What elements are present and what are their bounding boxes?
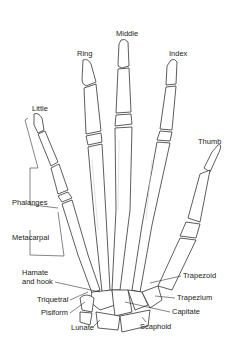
label-hamate-1: Hamate bbox=[22, 268, 48, 277]
label-lunate: Lunate bbox=[71, 323, 94, 332]
label-capitate: Capitate bbox=[172, 307, 200, 316]
label-ring: Ring bbox=[77, 49, 92, 58]
label-middle: Middle bbox=[116, 29, 138, 38]
label-hamate-2: and hook bbox=[22, 277, 53, 286]
middle-finger bbox=[112, 39, 132, 290]
label-pisiform: Pisiform bbox=[41, 308, 68, 317]
label-triquetral: Triquetral bbox=[37, 295, 69, 304]
label-metacarpal: Metacarpal bbox=[12, 233, 49, 242]
label-scaphoid: Scaphoid bbox=[140, 322, 171, 331]
label-trapezoid: Trapezoid bbox=[183, 271, 216, 280]
label-phalanges: Phalanges bbox=[12, 198, 48, 207]
label-index: Index bbox=[169, 49, 188, 58]
label-trapezium: Trapezium bbox=[177, 293, 212, 302]
label-little: Little bbox=[32, 104, 48, 113]
label-thumb: Thumb bbox=[198, 137, 221, 146]
index-finger bbox=[132, 59, 177, 292]
thumb bbox=[158, 145, 221, 290]
hand-bones-diagram: Middle Ring Index Little Thumb Phalanges… bbox=[0, 0, 235, 355]
